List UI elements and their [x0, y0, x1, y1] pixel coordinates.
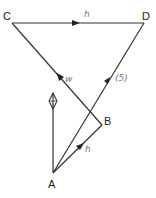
arrow-cb-icon	[57, 73, 64, 81]
label-b: B	[104, 115, 111, 127]
label-d: D	[142, 10, 150, 22]
note-ad: (5)	[115, 73, 128, 83]
label-c: C	[3, 10, 11, 22]
edge-cb	[12, 23, 102, 125]
label-a: A	[48, 178, 56, 190]
note-ab: h	[85, 144, 91, 154]
note-cd: h	[84, 9, 90, 19]
vector-diagram: C D B A h w (5) h	[0, 0, 156, 198]
note-cb: w	[65, 74, 73, 84]
arrow-cd-icon	[72, 20, 80, 26]
edge-ad	[53, 23, 144, 173]
